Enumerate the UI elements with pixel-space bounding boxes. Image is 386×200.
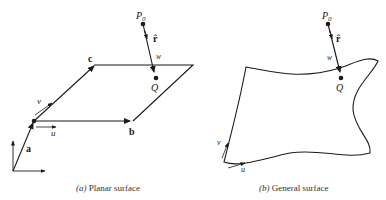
plane-edges [94, 65, 193, 121]
label-p0: P0 [135, 10, 146, 23]
caption-b: (b) General surface [259, 183, 328, 193]
panel-planar-surface: a b c u v P0 r̂ w Q (a) Planar surface [13, 10, 193, 193]
label-u: u [51, 128, 56, 138]
origin-point [32, 119, 37, 124]
figure: a b c u v P0 r̂ w Q (a) Planar surface u… [0, 0, 386, 200]
label-u-b: u [241, 165, 245, 174]
label-q-b: Q [336, 82, 344, 93]
label-b: b [129, 126, 135, 137]
label-v: v [37, 96, 41, 106]
label-r-hat-b: r̂ [336, 33, 341, 44]
label-r-hat: r̂ [153, 33, 158, 44]
vector-c-arrow [34, 66, 94, 121]
point-q-b [339, 76, 344, 81]
label-a: a [26, 143, 31, 154]
caption-a: (a) Planar surface [76, 183, 140, 193]
panel-general-surface: u v P0 r̂ w Q (b) General surface [217, 10, 378, 193]
curved-surface-outline [224, 59, 378, 164]
label-c: c [88, 53, 93, 64]
label-w-b: w [327, 53, 332, 62]
label-q: Q [151, 82, 159, 93]
label-w: w [156, 52, 161, 61]
label-v-b: v [217, 138, 221, 147]
label-p0-b: P0 [321, 10, 332, 23]
point-q [154, 76, 159, 81]
